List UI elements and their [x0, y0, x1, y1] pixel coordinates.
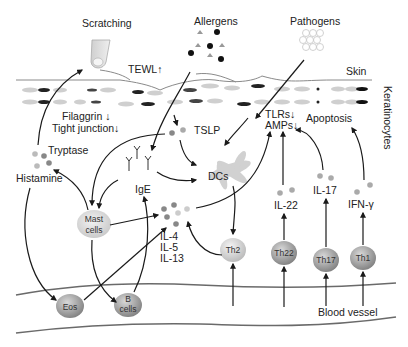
th2-cytokine-dots [161, 202, 190, 227]
skin-surface [16, 70, 372, 90]
tslp-label: TSLP [194, 124, 220, 136]
ige-label: IgE [135, 183, 151, 195]
th22-cell: Th22 [271, 241, 297, 265]
b-cell-label-1: B [125, 294, 131, 304]
tewl-label: TEWL↑ [128, 63, 162, 75]
mast-cell-label-2: cells [85, 225, 102, 235]
th2-cell: Th2 [220, 238, 246, 262]
th22-label: Th22 [274, 248, 294, 258]
ifng-label: IFN-γ [348, 198, 374, 210]
il22-dot [289, 187, 295, 193]
tight-junction-label: Tight junction↓ [52, 122, 119, 134]
il22-label: IL-22 [274, 199, 298, 211]
scratching-label: Scratching [82, 17, 132, 29]
keratinocyte-layer [22, 84, 368, 107]
pathogens-label: Pathogens [290, 15, 340, 27]
b-cell: B cells [114, 293, 142, 317]
ifng-dot [367, 182, 373, 188]
mast-cell-label-1: Mast [85, 214, 104, 224]
il17-label: IL-17 [313, 184, 337, 196]
b-cell-label-2: cells [119, 304, 136, 314]
il17-dot [317, 173, 323, 179]
histamine-label: Histamine [16, 172, 63, 184]
il17-dot [328, 175, 334, 181]
tslp-dot [180, 127, 186, 133]
ifng-dot [354, 189, 360, 195]
ad-pathogenesis-diagram: Scratching Allergens Pathogens TEWL↑ Ski… [0, 0, 408, 347]
apoptosis-label: Apoptosis [306, 112, 352, 124]
eosinophil-cell: Eos [56, 294, 84, 318]
allergen-particles-icon [188, 29, 225, 62]
tryptase-label: Tryptase [48, 144, 89, 156]
mast-cell: Mast cells [77, 210, 111, 238]
filaggrin-label: Filaggrin ↓ [62, 110, 110, 122]
th17-cell: Th17 [313, 248, 339, 272]
th1-label: Th1 [356, 253, 371, 263]
dcs-label: DCs [208, 170, 228, 182]
pathogen-cluster-icon [300, 30, 324, 51]
th17-label: Th17 [316, 255, 336, 265]
amps-label: AMPs↓ [265, 119, 298, 131]
il13-label: IL-13 [160, 252, 184, 264]
keratinocytes-label: Keratinocytes [382, 86, 394, 150]
allergens-label: Allergens [194, 15, 238, 27]
tslp-dot [169, 130, 175, 136]
ige-antibody-icons [126, 146, 151, 171]
th2-label: Th2 [226, 245, 241, 255]
blood-vessel-label: Blood vessel [318, 306, 378, 318]
skin-label: Skin [346, 65, 367, 77]
eos-label: Eos [63, 302, 78, 312]
th1-cell: Th1 [350, 246, 376, 270]
il22-dot [277, 190, 283, 196]
finger-icon [91, 40, 110, 68]
